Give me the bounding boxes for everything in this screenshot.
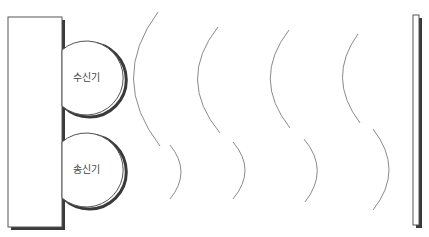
incoming-wave-3 xyxy=(270,30,290,128)
receiver: 수신기 xyxy=(62,41,126,117)
incoming-wave-2 xyxy=(197,27,220,133)
incoming-wave-4 xyxy=(342,34,360,123)
incoming-wave-1 xyxy=(133,12,160,146)
outgoing-waves xyxy=(170,129,389,210)
receiver-label: 수신기 xyxy=(73,72,100,83)
transmitter-label: 송신기 xyxy=(73,164,100,175)
reflector-wall xyxy=(413,15,422,228)
reflector-wall-rect xyxy=(413,15,419,225)
device-body-rect xyxy=(8,17,62,227)
outgoing-wave-3 xyxy=(304,139,317,202)
radar-diagram: 수신기 송신기 xyxy=(0,0,429,237)
incoming-waves xyxy=(133,12,360,146)
outgoing-wave-2 xyxy=(233,142,245,199)
outgoing-wave-4 xyxy=(373,129,389,210)
device-body xyxy=(8,17,65,230)
transmitter: 송신기 xyxy=(62,133,126,209)
outgoing-wave-1 xyxy=(170,145,181,199)
